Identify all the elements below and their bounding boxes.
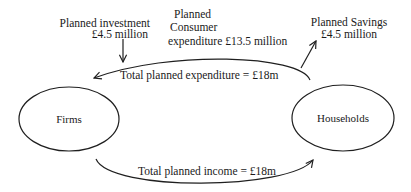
consumer-expenditure-line2: Consumer — [170, 21, 217, 33]
circular-flow-diagram: Firms Households Total planned expenditu… — [0, 0, 411, 192]
consumer-expenditure-line3: expenditure £13.5 million — [168, 35, 287, 48]
diagram-svg: Firms Households Total planned expenditu… — [0, 0, 411, 192]
consumer-expenditure-line1: Planned — [174, 8, 211, 20]
households-node: Households — [292, 85, 394, 151]
firms-label: Firms — [56, 113, 82, 125]
income-flow-label: Total planned income = £18m — [138, 165, 276, 178]
investment-label-line2: £4.5 million — [92, 28, 148, 40]
firms-node: Firms — [19, 87, 119, 151]
savings-withdrawal-arrow — [301, 41, 316, 68]
savings-label-line2: £4.5 million — [321, 28, 377, 40]
households-label: Households — [317, 112, 369, 124]
expenditure-flow-label: Total planned expenditure = £18m — [120, 69, 278, 82]
